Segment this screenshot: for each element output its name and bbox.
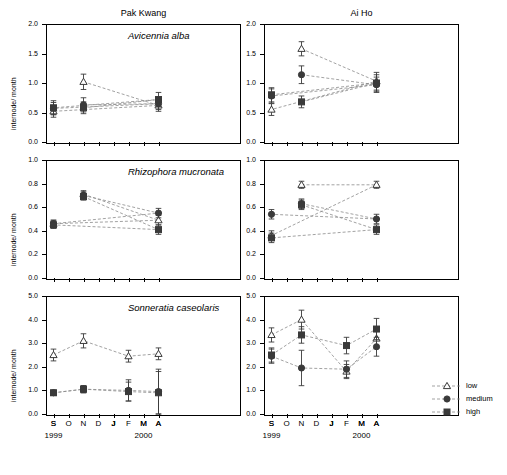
x-tick-label: J [107,419,121,428]
x-year-label: 2000 [129,431,159,440]
x-tick-mark [302,142,303,146]
series-layer [46,296,241,414]
y-tick-label: 1.5 [234,50,256,57]
x-tick-mark [144,142,145,146]
x-tick-mark [129,142,130,146]
y-tick-label: 0.0 [16,410,38,417]
x-tick-mark [99,414,100,418]
y-tick-label: 0.6 [234,203,256,210]
x-tick-label: F [122,419,136,428]
x-tick-label: N [77,419,91,428]
x-tick-mark [114,278,115,282]
x-tick-label: M [355,419,369,428]
y-tick-label: 2.0 [234,20,256,27]
x-tick-label: D [310,419,324,428]
x-tick-mark [332,142,333,146]
y-tick-mark [260,414,264,415]
y-axis-label: internode/ month [10,349,17,402]
x-tick-label: O [62,419,76,428]
x-tick-label: S [265,419,279,428]
x-tick-mark [99,278,100,282]
x-tick-label: N [295,419,309,428]
y-tick-label: 1.0 [234,386,256,393]
y-tick-label: 0.8 [16,180,38,187]
y-tick-label: 2.0 [234,363,256,370]
y-tick-label: 2.0 [16,363,38,370]
x-tick-mark [287,278,288,282]
series-layer [264,160,459,278]
legend-marker-open-triangle [432,380,462,392]
x-tick-mark [347,142,348,146]
x-year-label: 1999 [257,431,287,440]
x-tick-mark [377,142,378,146]
chart-figure: Pak KwangAi Ho0.00.51.01.52.0internode/ … [0,0,507,475]
y-tick-mark [42,142,46,143]
x-tick-label: A [370,419,384,428]
y-tick-label: 0.0 [234,274,256,281]
y-tick-mark [260,142,264,143]
x-tick-mark [114,414,115,418]
x-tick-mark [144,414,145,418]
x-tick-mark [317,278,318,282]
x-tick-label: S [47,419,61,428]
x-tick-mark [69,414,70,418]
x-tick-mark [287,414,288,418]
x-tick-mark [159,142,160,146]
x-tick-label: D [92,419,106,428]
y-tick-label: 0.5 [234,109,256,116]
series-layer [46,160,241,278]
y-tick-label: 0.6 [16,203,38,210]
y-axis-label: internode/ month [10,213,17,266]
x-tick-mark [54,278,55,282]
series-layer [264,296,459,414]
x-tick-mark [129,278,130,282]
x-tick-label: A [152,419,166,428]
series-layer [264,24,459,142]
x-tick-mark [54,142,55,146]
y-tick-label: 0.2 [234,250,256,257]
x-tick-mark [272,278,273,282]
y-tick-label: 4.0 [16,316,38,323]
x-tick-mark [377,278,378,282]
column-title-pak-kwang: Pak Kwang [46,8,241,18]
x-tick-label: M [137,419,151,428]
y-tick-label: 3.0 [16,339,38,346]
y-tick-label: 0.0 [234,410,256,417]
x-tick-mark [362,142,363,146]
x-tick-mark [54,414,55,418]
y-tick-label: 1.0 [234,156,256,163]
x-tick-mark [69,278,70,282]
y-tick-label: 0.0 [16,138,38,145]
y-tick-mark [42,414,46,415]
x-tick-label: F [340,419,354,428]
y-tick-label: 1.0 [16,79,38,86]
x-tick-mark [317,414,318,418]
x-tick-mark [272,414,273,418]
y-axis-label: internode/ month [10,77,17,130]
x-tick-mark [69,142,70,146]
x-year-label: 2000 [347,431,377,440]
x-tick-mark [272,142,273,146]
x-tick-mark [84,414,85,418]
x-tick-mark [377,414,378,418]
x-tick-mark [114,142,115,146]
x-tick-mark [332,278,333,282]
legend-label: low [466,381,477,390]
y-tick-label: 0.4 [16,227,38,234]
y-tick-label: 0.0 [234,138,256,145]
x-tick-mark [317,142,318,146]
y-tick-label: 5.0 [234,292,256,299]
y-tick-label: 1.0 [16,156,38,163]
y-tick-label: 0.2 [16,250,38,257]
y-tick-mark [42,278,46,279]
y-tick-label: 2.0 [16,20,38,27]
y-tick-label: 4.0 [234,316,256,323]
x-tick-mark [144,278,145,282]
y-tick-label: 5.0 [16,292,38,299]
y-tick-label: 0.5 [16,109,38,116]
x-tick-label: O [280,419,294,428]
legend-label: medium [466,394,493,403]
x-tick-mark [159,278,160,282]
x-tick-mark [129,414,130,418]
x-tick-mark [99,142,100,146]
